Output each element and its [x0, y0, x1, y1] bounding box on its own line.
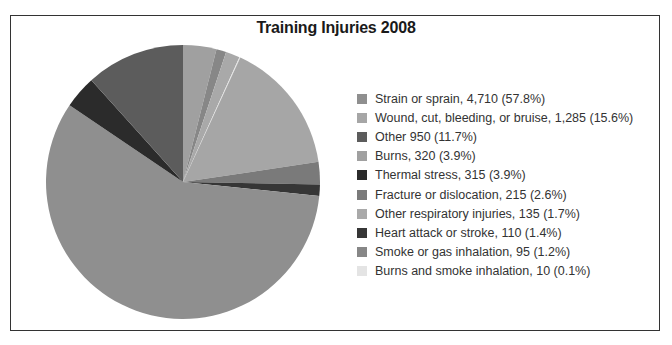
legend-label: Other 950 (11.7%)	[375, 130, 477, 144]
legend-item: Fracture or dislocation, 215 (2.6%)	[357, 185, 633, 204]
legend-item: Other 950 (11.7%)	[357, 127, 633, 146]
legend-label: Strain or sprain, 4,710 (57.8%)	[375, 92, 545, 106]
legend-item: Thermal stress, 315 (3.9%)	[357, 166, 633, 185]
legend-label: Burns, 320 (3.9%)	[375, 149, 476, 163]
legend-item: Burns and smoke inhalation, 10 (0.1%)	[357, 262, 633, 281]
legend-swatch	[357, 94, 367, 104]
legend-label: Heart attack or stroke, 110 (1.4%)	[375, 226, 562, 240]
legend-item: Smoke or gas inhalation, 95 (1.2%)	[357, 243, 633, 262]
legend-swatch	[357, 228, 367, 238]
legend-item: Heart attack or stroke, 110 (1.4%)	[357, 223, 633, 242]
legend-swatch	[357, 266, 367, 276]
legend-label: Fracture or dislocation, 215 (2.6%)	[375, 188, 567, 202]
legend-swatch	[357, 190, 367, 200]
legend-swatch	[357, 247, 367, 257]
legend-swatch	[357, 170, 367, 180]
legend-item: Wound, cut, bleeding, or bruise, 1,285 (…	[357, 108, 633, 127]
legend-label: Wound, cut, bleeding, or bruise, 1,285 (…	[375, 111, 633, 125]
legend-item: Strain or sprain, 4,710 (57.8%)	[357, 89, 633, 108]
legend-swatch	[357, 209, 367, 219]
legend-swatch	[357, 151, 367, 161]
legend-label: Burns and smoke inhalation, 10 (0.1%)	[375, 264, 590, 278]
legend-swatch	[357, 132, 367, 142]
legend-item: Other respiratory injuries, 135 (1.7%)	[357, 204, 633, 223]
legend-label: Other respiratory injuries, 135 (1.7%)	[375, 207, 580, 221]
chart-legend: Strain or sprain, 4,710 (57.8%) Wound, c…	[357, 89, 633, 281]
legend-label: Thermal stress, 315 (3.9%)	[375, 168, 526, 182]
legend-item: Burns, 320 (3.9%)	[357, 147, 633, 166]
legend-label: Smoke or gas inhalation, 95 (1.2%)	[375, 245, 570, 259]
legend-swatch	[357, 113, 367, 123]
